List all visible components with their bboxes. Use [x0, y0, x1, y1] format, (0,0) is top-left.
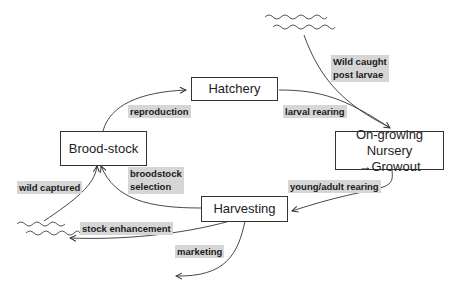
label-larval-rearing: larval rearing: [283, 105, 347, 118]
water-wave-icon-top: [265, 15, 327, 19]
label-broodstock-selection-line1: broodstock: [130, 168, 182, 181]
label-marketing-text: marketing: [177, 246, 222, 257]
label-broodstock-selection: broodstock selection: [128, 167, 184, 194]
label-stock-enhancement: stock enhancement: [80, 222, 173, 235]
label-wild-caught-post-larvae: Wild caught post larvae: [331, 55, 389, 82]
label-young-adult-rearing: young/adult rearing: [288, 180, 381, 193]
node-ongrowing: On-growing Nursery →Growout: [335, 131, 444, 170]
node-ongrowing-label-line2: Nursery →Growout: [336, 143, 443, 175]
node-broodstock: Brood-stock: [60, 131, 147, 166]
water-wave-icon-bottom: [17, 222, 65, 226]
label-stock-enhancement-text: stock enhancement: [82, 223, 171, 234]
node-hatchery: Hatchery: [191, 77, 278, 101]
label-marketing: marketing: [175, 245, 224, 258]
water-wave-icon-top-2: [273, 25, 335, 29]
node-harvesting-label: Harvesting: [213, 201, 275, 217]
node-hatchery-label: Hatchery: [208, 81, 260, 97]
label-wild-caught-line1: Wild caught: [333, 56, 387, 69]
label-young-adult-rearing-text: young/adult rearing: [290, 181, 379, 192]
label-wild-captured: wild captured: [17, 181, 82, 194]
label-larval-rearing-text: larval rearing: [285, 106, 345, 117]
label-broodstock-selection-line2: selection: [130, 181, 182, 194]
water-wave-icon-bottom-2: [26, 231, 80, 235]
node-harvesting: Harvesting: [201, 196, 288, 222]
label-wild-caught-line2: post larvae: [333, 69, 387, 82]
label-reproduction-text: reproduction: [130, 106, 189, 117]
node-ongrowing-label-line1: On-growing: [356, 127, 423, 143]
label-wild-captured-text: wild captured: [19, 182, 80, 193]
label-reproduction: reproduction: [128, 105, 191, 118]
node-broodstock-label: Brood-stock: [69, 141, 138, 157]
